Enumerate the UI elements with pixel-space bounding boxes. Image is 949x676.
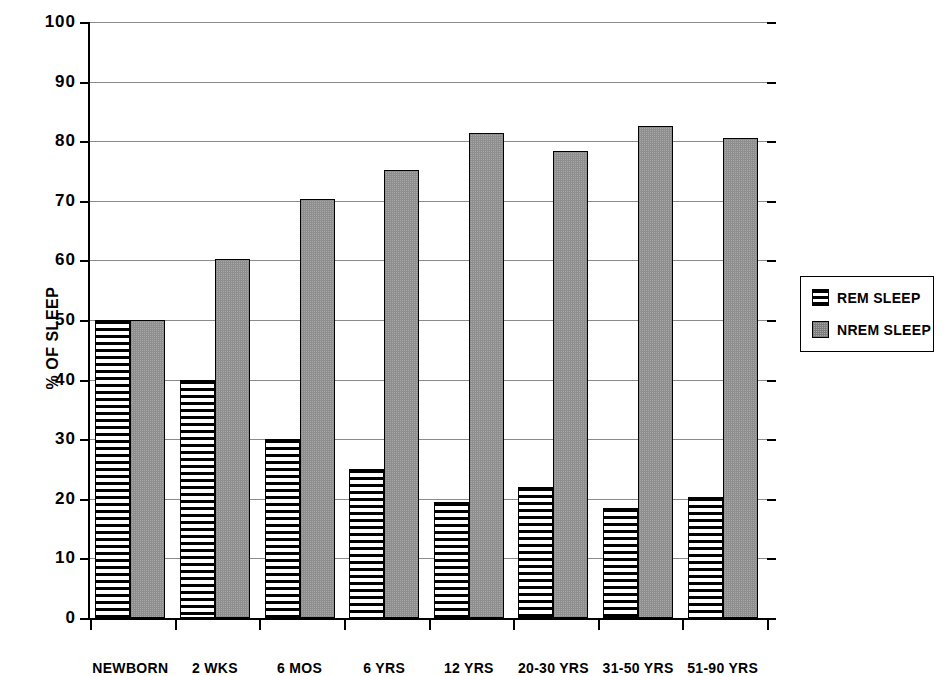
x-axis-tick [344, 618, 346, 630]
bar-group [180, 22, 250, 618]
x-axis-label: 6 MOS [277, 660, 322, 676]
bar-group [265, 22, 335, 618]
bar-rem [518, 487, 553, 618]
bar-rem [603, 508, 638, 618]
y-axis-tick-label: 80 [55, 131, 76, 151]
y-axis-tick [80, 618, 90, 620]
y-axis-tick-right [767, 499, 776, 501]
y-axis-tick [80, 22, 90, 24]
bar-group [349, 22, 419, 618]
y-axis-tick-right [767, 380, 776, 382]
nrem-swatch-icon [812, 321, 829, 338]
x-axis-label: 6 YRS [363, 660, 405, 676]
y-axis-tick [80, 558, 90, 560]
chart-legend: REM SLEEP NREM SLEEP [800, 276, 934, 352]
y-axis-tick-label: 90 [55, 72, 76, 92]
y-axis-tick-right [767, 201, 776, 203]
bar-rem [349, 469, 384, 618]
legend-label-nrem: NREM SLEEP [837, 322, 931, 338]
y-axis-tick-label: 0 [66, 608, 76, 628]
x-axis-tick [429, 618, 431, 630]
y-axis-tick-right [767, 558, 776, 560]
x-axis-label: 20-30 YRS [518, 660, 589, 676]
bar-group [688, 22, 758, 618]
grouped-bar-chart: % OF SLEEP 0102030405060708090100 NEWBOR… [0, 0, 949, 676]
bar-rem [265, 439, 300, 618]
y-axis-tick-label: 40 [55, 370, 76, 390]
bar-nrem [723, 138, 758, 618]
legend-item-rem: REM SLEEP [812, 289, 921, 306]
x-axis-label: 12 YRS [444, 660, 494, 676]
x-axis-tick [682, 618, 684, 630]
y-axis-tick-right [767, 439, 776, 441]
bar-nrem [638, 126, 673, 618]
y-axis-tick-label: 70 [55, 191, 76, 211]
x-axis-tick [767, 618, 769, 630]
y-axis-tick [80, 320, 90, 322]
bar-group [434, 22, 504, 618]
y-axis-tick [80, 380, 90, 382]
bar-nrem [130, 320, 165, 618]
x-axis-tick [90, 618, 92, 630]
x-axis-tick [513, 618, 515, 630]
x-axis-tick [175, 618, 177, 630]
rem-swatch-icon [812, 289, 829, 306]
x-axis-label: 31-50 YRS [603, 660, 674, 676]
x-axis-tick [598, 618, 600, 630]
y-axis-tick-label: 20 [55, 489, 76, 509]
y-axis-tick-right [767, 141, 776, 143]
bar-nrem [300, 199, 335, 618]
y-axis-tick-label: 30 [55, 429, 76, 449]
y-axis-tick-right [767, 260, 776, 262]
x-axis-label: NEWBORN [92, 660, 168, 676]
x-axis-label: 51-90 YRS [687, 660, 758, 676]
bar-nrem [553, 151, 588, 618]
y-axis-tick [80, 82, 90, 84]
bars-layer [90, 22, 767, 618]
y-axis-tick-label: 100 [45, 12, 76, 32]
bar-nrem [215, 259, 250, 618]
bar-rem [688, 497, 723, 618]
y-axis-tick-right [767, 320, 776, 322]
x-axis-label: 2 WKS [192, 660, 238, 676]
bar-group [603, 22, 673, 618]
bar-group [95, 22, 165, 618]
y-axis-tick-label: 60 [55, 250, 76, 270]
bar-nrem [469, 133, 504, 618]
x-axis-tick [259, 618, 261, 630]
legend-item-nrem: NREM SLEEP [812, 321, 931, 338]
y-axis-tick-right [767, 82, 776, 84]
y-axis-tick [80, 439, 90, 441]
y-axis-tick-right [767, 22, 776, 24]
legend-label-rem: REM SLEEP [837, 290, 921, 306]
bar-rem [434, 502, 469, 618]
y-axis-tick-label: 10 [55, 548, 76, 568]
y-axis-tick-label: 50 [55, 310, 76, 330]
bar-group [518, 22, 588, 618]
bar-rem [95, 320, 130, 618]
bar-rem [180, 380, 215, 618]
plot-area: 0102030405060708090100 NEWBORN2 WKS6 MOS… [88, 22, 765, 618]
y-axis-tick [80, 260, 90, 262]
y-axis-tick [80, 201, 90, 203]
y-axis-tick [80, 141, 90, 143]
y-axis-tick [80, 499, 90, 501]
bar-nrem [384, 170, 419, 618]
